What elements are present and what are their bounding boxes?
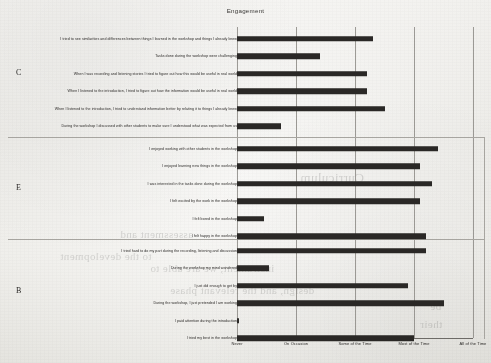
table-row: When I listened to the introduction, I t… [0, 83, 491, 100]
table-row: I tried to see similarities and differen… [0, 30, 491, 47]
bar [237, 248, 426, 254]
bar [237, 335, 414, 341]
bar [237, 146, 438, 152]
bar [237, 283, 408, 289]
bar-category-label: I tried to see similarities and differen… [60, 37, 237, 41]
bar-category-label: When I listened to the introduction, I t… [55, 107, 237, 111]
table-row: I was interested in the tasks done durin… [0, 175, 491, 192]
bar [237, 181, 432, 187]
bar-category-label: I felt excited by the work in the worksh… [170, 199, 237, 203]
table-row: Tasks done during the workshop were chal… [0, 48, 491, 65]
bar-category-label: When I listened to the introduction, I t… [68, 89, 237, 93]
bar [237, 36, 373, 42]
table-row: During the workshop, I just pretended I … [0, 295, 491, 312]
bar [237, 123, 281, 129]
bar-category-label: Tasks done during the workshop were chal… [155, 54, 237, 58]
bar [237, 216, 264, 222]
table-row: I tried hard to do my part during the re… [0, 242, 491, 259]
bar [237, 300, 444, 306]
bar-category-label: When I was recording and listening stori… [74, 72, 237, 76]
bar [237, 71, 367, 77]
bar-category-label: I just did enough to get by [194, 284, 237, 288]
table-row: I felt excited by the work in the worksh… [0, 193, 491, 210]
bar-category-label: I tried hard to do my part during the re… [121, 249, 237, 253]
table-row: During the workshop I discussed with oth… [0, 118, 491, 135]
table-row: I enjoyed learning new things in the wor… [0, 158, 491, 175]
bar-category-label: I paid attention during the introduction [175, 319, 237, 323]
bar-category-label: I felt happy in the workshop [192, 234, 237, 238]
bar [237, 318, 239, 324]
bar [237, 198, 420, 204]
table-row: When I was recording and listening stori… [0, 65, 491, 82]
table-row: I felt bored in the workshop [0, 210, 491, 227]
bar-category-label: During the workshop my mind wandered [171, 266, 237, 270]
bar [237, 88, 367, 94]
x-tick-label: Never [231, 341, 242, 346]
bar-category-label: I felt bored in the workshop [192, 217, 237, 221]
bar-category-label: I enjoyed working with other students in… [149, 147, 237, 151]
bar [237, 53, 320, 59]
bar [237, 233, 426, 239]
bar [237, 265, 269, 271]
x-tick-label: Some of the Time [339, 341, 372, 346]
bar [237, 106, 385, 112]
engagement-bar-chart: Engagement C E B I tried to see similari… [0, 0, 491, 363]
x-tick-label: On Occasion [284, 341, 308, 346]
table-row: I paid attention during the introduction [0, 312, 491, 329]
bar-category-label: I tried my best in the workshop [187, 336, 237, 340]
x-tick-label: All of the Time [460, 341, 487, 346]
table-row: I just did enough to get by [0, 277, 491, 294]
table-row: When I listened to the introduction, I t… [0, 100, 491, 117]
bar-category-label: During the workshop, I just pretended I … [153, 301, 237, 305]
chart-title: Engagement [0, 7, 491, 14]
table-row: I enjoyed working with other students in… [0, 140, 491, 157]
bar [237, 163, 420, 169]
bar-category-label: I enjoyed learning new things in the wor… [162, 164, 237, 168]
table-row: During the workshop my mind wandered [0, 260, 491, 277]
bar-category-label: During the workshop I discussed with oth… [61, 124, 237, 128]
group-separator-c-e [8, 137, 485, 138]
bar-category-label: I was interested in the tasks done durin… [148, 182, 237, 186]
x-tick-label: Most of the Time [398, 341, 429, 346]
